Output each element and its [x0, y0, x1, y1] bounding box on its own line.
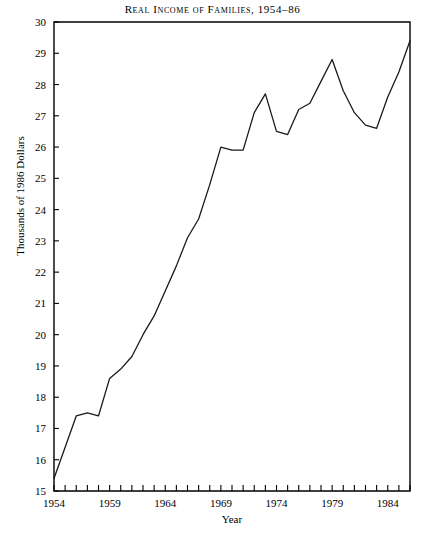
x-tick-label: 1964	[154, 497, 177, 509]
x-axis-ticks: 1954195919641969197419791984	[43, 485, 410, 509]
y-tick-label: 22	[35, 266, 46, 278]
x-tick-label: 1979	[321, 497, 344, 509]
y-tick-label: 30	[35, 16, 47, 28]
y-tick-label: 24	[35, 204, 47, 216]
x-tick-label: 1984	[377, 497, 400, 509]
y-tick-label: 15	[35, 485, 47, 497]
y-tick-label: 19	[35, 360, 47, 372]
y-tick-label: 20	[35, 329, 47, 341]
line-chart-plot: 15161718192021222324252627282930 1954195…	[0, 0, 425, 535]
y-tick-label: 16	[35, 454, 47, 466]
y-tick-label: 29	[35, 47, 47, 59]
x-tick-label: 1954	[43, 497, 66, 509]
y-tick-label: 21	[35, 297, 46, 309]
y-tick-label: 25	[35, 172, 47, 184]
y-tick-label: 26	[35, 141, 47, 153]
y-axis-ticks: 15161718192021222324252627282930	[35, 16, 59, 497]
y-tick-label: 18	[35, 391, 47, 403]
y-tick-label: 27	[35, 110, 47, 122]
x-tick-label: 1959	[99, 497, 122, 509]
plot-frame	[54, 22, 410, 491]
y-tick-label: 17	[35, 422, 47, 434]
data-series-line	[54, 41, 410, 479]
y-tick-label: 23	[35, 235, 47, 247]
y-tick-label: 28	[35, 79, 47, 91]
x-tick-label: 1969	[210, 497, 233, 509]
chart-page: Real Income of Families, 1954–86 Thousan…	[0, 0, 425, 535]
x-tick-label: 1974	[266, 497, 289, 509]
